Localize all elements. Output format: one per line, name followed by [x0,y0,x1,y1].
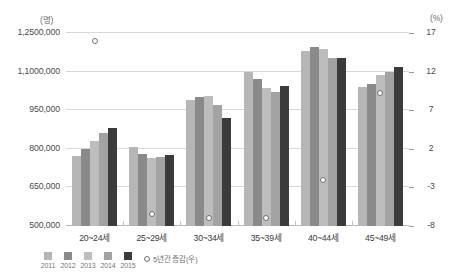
right-axis-tick-label: 12 [418,66,444,76]
legend-item-label: 2011 [38,262,58,269]
legend-item-2012[interactable]: 2012 [58,252,78,269]
change-marker[interactable] [320,177,326,183]
bar-2014[interactable] [271,92,280,226]
left-axis-tick-label: 650,000 [0,181,60,191]
category-tickmark [180,221,181,226]
bar-group [352,33,409,226]
right-axis-tickmark [409,226,414,227]
legend-item-2015[interactable]: 2015 [118,252,138,269]
category-label: 40~44세 [295,231,352,244]
bar-2011[interactable] [358,87,367,226]
bar-2013[interactable] [319,49,328,226]
category-tickmark [352,221,353,226]
bar-group-bars [123,33,180,226]
plot-area [66,33,409,226]
bar-2011[interactable] [129,147,138,226]
bar-2013[interactable] [376,75,385,226]
bar-2012[interactable] [310,47,319,226]
legend-swatch-icon [44,252,52,260]
bar-2014[interactable] [213,105,222,226]
legend-item-label: 2013 [78,262,98,269]
change-marker[interactable] [377,90,383,96]
right-axis [418,33,444,226]
legend-circle-marker-icon [144,256,150,262]
bar-2015[interactable] [394,67,403,226]
left-axis-unit-label: (명) [40,13,53,25]
legend-item-label: 5년간 증감(우) [153,253,197,264]
category-tickmark [295,221,296,226]
legend-swatch-icon [104,252,112,260]
bar-2012[interactable] [138,154,147,226]
legend-swatch-icon [64,252,72,260]
bar-group [295,33,352,226]
bar-2011[interactable] [72,156,81,226]
change-marker[interactable] [206,215,212,221]
bar-2014[interactable] [328,58,337,226]
bar-2011[interactable] [244,72,253,226]
left-axis-tick-label: 800,000 [0,143,60,153]
legend-item-2014[interactable]: 2014 [98,252,118,269]
category-label: 25~29세 [123,231,180,244]
right-axis-tick-label: 17 [418,27,444,37]
change-marker[interactable] [149,211,155,217]
bar-group-bars [180,33,237,226]
chart-legend: 201120122013201420155년간 증감(우) [38,252,197,269]
change-marker[interactable] [92,38,98,44]
legend-item-2013[interactable]: 2013 [78,252,98,269]
bar-2013[interactable] [262,88,271,226]
right-axis-tickmark [409,33,414,34]
bar-group-bars [238,33,295,226]
bar-2015[interactable] [108,128,117,226]
legend-item-label: 2015 [118,262,138,269]
bar-2011[interactable] [301,51,310,226]
bar-2015[interactable] [222,118,231,226]
left-axis-tick-label: 1,2500,000 [0,27,60,37]
change-marker[interactable] [263,215,269,221]
category-label: 30~34세 [180,231,237,244]
bar-2012[interactable] [195,97,204,226]
legend-swatch-icon [84,252,92,260]
bar-2013[interactable] [90,141,99,226]
right-axis-tick-label: 7 [418,104,444,114]
right-axis-tick-label: 2 [418,143,444,153]
left-axis [0,33,60,226]
category-label: 35~39세 [238,231,295,244]
bar-2012[interactable] [253,79,262,226]
left-axis-tick-label: 1,1000,000 [0,66,60,76]
right-axis-unit-label: (%) [430,13,443,23]
bar-group [238,33,295,226]
bar-2014[interactable] [385,72,394,226]
bar-2012[interactable] [367,84,376,226]
right-axis-tickmark [409,72,414,73]
left-axis-tick-label: 950,000 [0,104,60,114]
category-tickmark [238,221,239,226]
legend-swatch-icon [124,252,132,260]
bar-group [66,33,123,226]
left-axis-tick-label: 500,000 [0,220,60,230]
right-axis-tickmark [409,110,414,111]
legend-item-label: 2012 [58,262,78,269]
category-tickmark [123,221,124,226]
bar-2011[interactable] [186,100,195,226]
bar-2014[interactable] [156,157,165,226]
bar-2012[interactable] [81,149,90,226]
legend-item-change[interactable]: 5년간 증감(우) [144,252,197,264]
right-axis-tick-label: -3 [418,181,444,191]
legend-item-2011[interactable]: 2011 [38,252,58,269]
bar-2015[interactable] [165,155,174,226]
bar-2015[interactable] [337,58,346,226]
bar-2014[interactable] [99,133,108,226]
bar-2013[interactable] [204,96,213,226]
category-label: 20~24세 [66,231,123,244]
right-axis-tickmark [409,187,414,188]
bar-group [180,33,237,226]
chart-container: (명) (%) 201120122013201420155년간 증감(우) 50… [0,0,466,275]
right-axis-tick-label: -8 [418,220,444,230]
bar-group-bars [295,33,352,226]
bar-2015[interactable] [280,86,289,227]
right-axis-tickmark [409,149,414,150]
bar-group-bars [66,33,123,226]
legend-item-label: 2014 [98,262,118,269]
category-label: 45~49세 [352,231,409,244]
bar-group [123,33,180,226]
